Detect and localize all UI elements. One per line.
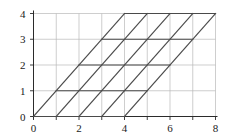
y-tick-label: 1 (20, 85, 26, 97)
x-tick-label: 4 (122, 122, 128, 134)
x-tick-label: 0 (31, 122, 37, 134)
plot-canvas: 0246801234 (0, 0, 232, 137)
x-tick-label: 2 (76, 122, 82, 134)
y-tick-label: 3 (20, 33, 26, 45)
y-tick-label: 0 (20, 111, 26, 123)
lattice-figure: 0246801234 (0, 0, 232, 137)
y-tick-label: 2 (20, 59, 26, 71)
x-tick-label: 8 (213, 122, 219, 134)
x-tick-label: 6 (167, 122, 173, 134)
y-tick-label: 4 (20, 8, 26, 20)
